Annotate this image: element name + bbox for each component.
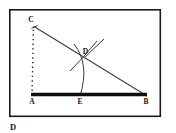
geometry-diagram-canvas: C D A E B D bbox=[0, 0, 176, 133]
geometry-figure: C D A E B D bbox=[0, 0, 176, 133]
figure-background bbox=[0, 0, 176, 133]
vertex-label-d: D bbox=[83, 47, 89, 56]
figure-caption: D bbox=[10, 122, 16, 132]
vertex-label-a: A bbox=[29, 97, 35, 106]
vertex-label-b: B bbox=[143, 97, 148, 106]
vertex-label-c: C bbox=[28, 15, 33, 24]
vertex-label-e: E bbox=[77, 97, 82, 106]
